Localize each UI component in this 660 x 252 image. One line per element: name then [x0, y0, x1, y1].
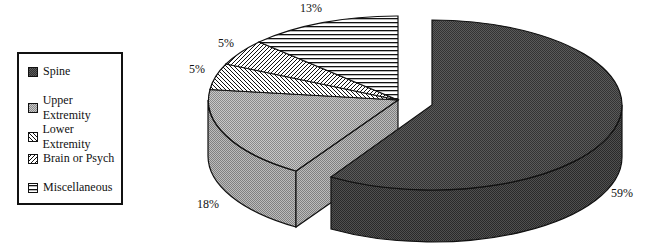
- legend-item-miscellaneous: Miscellaneous: [28, 180, 112, 195]
- swatch-dark-dither-icon: [28, 67, 38, 77]
- legend-label: Upper Extremity: [43, 93, 121, 123]
- legend-item-upper-extremity: Upper Extremity: [28, 93, 121, 123]
- legend-label: Miscellaneous: [43, 180, 112, 195]
- label-brain-or-psych-percent: 5%: [218, 36, 234, 51]
- label-lower-extremity-percent: 5%: [189, 62, 205, 77]
- legend-label: Lower Extremity: [43, 122, 121, 152]
- swatch-backslash-hatch-icon: [28, 132, 38, 142]
- swatch-slash-hatch-icon: [28, 154, 38, 164]
- label-upper-extremity-percent: 18%: [197, 197, 219, 212]
- label-spine-percent: 59%: [611, 186, 633, 201]
- legend-label: Brain or Psych: [43, 151, 114, 166]
- legend-item-brain-or-psych: Brain or Psych: [28, 151, 114, 166]
- chart-legend: Spine Upper Extremity Lower Extremity Br…: [17, 52, 123, 205]
- legend-label: Spine: [43, 64, 70, 79]
- legend-item-spine: Spine: [28, 64, 70, 79]
- swatch-light-dither-icon: [28, 103, 38, 113]
- swatch-horizontal-lines-icon: [28, 183, 38, 193]
- legend-item-lower-extremity: Lower Extremity: [28, 122, 121, 152]
- label-miscellaneous-percent: 13%: [300, 1, 322, 16]
